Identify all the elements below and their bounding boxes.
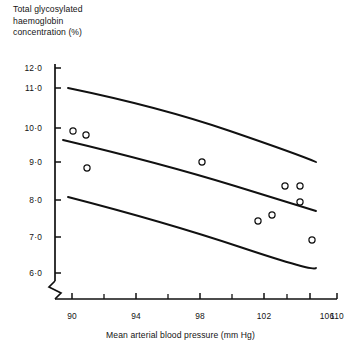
data-point	[70, 128, 76, 134]
regression-line-curve	[63, 140, 316, 211]
regression-curves-group	[63, 88, 316, 269]
lower-confidence-limit-curve	[68, 197, 316, 269]
data-point	[297, 199, 303, 205]
data-point	[83, 132, 89, 138]
data-point	[269, 212, 275, 218]
data-point	[255, 218, 261, 224]
data-point	[282, 183, 288, 189]
data-point	[309, 237, 315, 243]
plot-canvas	[0, 0, 361, 354]
scatter-plot-figure: Total glycosylated haemoglobin concentra…	[0, 0, 361, 354]
data-points-group	[70, 128, 315, 243]
y-axis-break-zigzag	[49, 281, 61, 299]
data-point	[199, 159, 205, 165]
x-axis-ticks	[72, 293, 337, 299]
y-axis-ticks	[55, 68, 61, 273]
data-point	[84, 165, 90, 171]
data-point	[297, 183, 303, 189]
